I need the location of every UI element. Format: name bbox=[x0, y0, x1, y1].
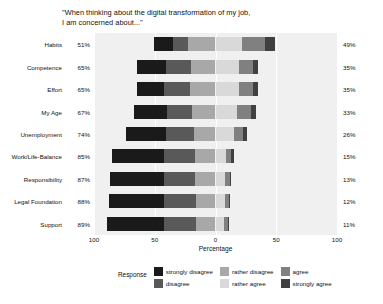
legend-item: strongly agree bbox=[281, 278, 332, 288]
negative-total-label: 74% bbox=[78, 130, 90, 137]
category-label: Work/Life-Balance bbox=[12, 153, 62, 160]
positive-total-label: 26% bbox=[343, 130, 355, 137]
category-label: Legal Foundation bbox=[14, 198, 62, 205]
chart-row: Responsibility87%13% bbox=[94, 168, 337, 190]
positive-total-label: 33% bbox=[343, 108, 355, 115]
x-tick-label: 0 bbox=[214, 236, 217, 243]
category-label: Support bbox=[40, 220, 62, 227]
legend-title: Response bbox=[118, 266, 147, 278]
legend-item: disagree bbox=[154, 278, 213, 288]
bar-segment-rather-agree bbox=[216, 127, 234, 141]
bar-segment-rather-agree bbox=[216, 149, 227, 163]
bar-segment-agree bbox=[237, 105, 250, 119]
x-tick-label: 50 bbox=[151, 236, 158, 243]
bar-segment-disagree bbox=[166, 60, 192, 74]
chart-legend: Response strongly disagreedisagreerather… bbox=[118, 266, 332, 292]
negative-total-label: 85% bbox=[78, 153, 90, 160]
bar-segment-rather-agree bbox=[216, 60, 239, 74]
stacked-bar bbox=[94, 105, 337, 119]
bar-segment-strongly-agree bbox=[229, 194, 230, 208]
bar-segment-agree bbox=[239, 82, 254, 96]
bar-segment-strongly-agree bbox=[251, 105, 256, 119]
legend-label: strongly agree bbox=[293, 280, 332, 287]
x-axis-title: Percentage bbox=[94, 245, 337, 252]
bar-segment-rather-agree bbox=[216, 194, 226, 208]
stacked-bar bbox=[94, 37, 337, 51]
category-label: Habits bbox=[44, 41, 62, 48]
legend-swatch-icon bbox=[220, 279, 229, 288]
bar-segment-strongly-disagree bbox=[137, 60, 166, 74]
legend-column: rather disagreerather agree bbox=[220, 266, 274, 288]
bar-segment-disagree bbox=[164, 82, 190, 96]
bar-segment-rather-disagree bbox=[190, 82, 216, 96]
x-tick-label: 50 bbox=[273, 236, 280, 243]
legend-item: rather disagree bbox=[220, 266, 274, 276]
category-label: My Age bbox=[41, 108, 62, 115]
legend-label: disagree bbox=[166, 280, 190, 287]
positive-total-label: 35% bbox=[343, 86, 355, 93]
category-label: Effort bbox=[47, 86, 62, 93]
legend-columns: strongly disagreedisagreerather disagree… bbox=[154, 266, 332, 288]
bar-segment-strongly-agree bbox=[243, 127, 247, 141]
bar-segment-strongly-agree bbox=[231, 149, 233, 163]
stacked-bar bbox=[94, 194, 337, 208]
chart-row: Work/Life-Balance85%15% bbox=[94, 145, 337, 167]
chart-title: "When thinking about the digital transfo… bbox=[62, 8, 322, 28]
bar-segment-strongly-disagree bbox=[134, 105, 167, 119]
bar-segment-strongly-agree bbox=[228, 217, 229, 231]
negative-total-label: 65% bbox=[78, 63, 90, 70]
x-tick-label: 100 bbox=[89, 236, 99, 243]
bar-segment-rather-disagree bbox=[188, 37, 216, 51]
stacked-bar bbox=[94, 127, 337, 141]
bar-segment-rather-agree bbox=[216, 105, 238, 119]
bar-segment-strongly-disagree bbox=[112, 149, 164, 163]
positive-total-label: 35% bbox=[343, 63, 355, 70]
category-label: Competence bbox=[27, 63, 62, 70]
gridline-pos100 bbox=[337, 33, 338, 235]
positive-total-label: 12% bbox=[343, 198, 355, 205]
negative-total-label: 88% bbox=[78, 198, 90, 205]
bar-segment-disagree bbox=[164, 172, 194, 186]
bar-segment-strongly-disagree bbox=[137, 82, 165, 96]
positive-total-label: 49% bbox=[343, 41, 355, 48]
bar-segment-rather-disagree bbox=[195, 149, 216, 163]
chart-row: Effort65%35% bbox=[94, 78, 337, 100]
bar-segment-rather-disagree bbox=[191, 60, 215, 74]
chart-row: My Age67%33% bbox=[94, 100, 337, 122]
legend-label: agree bbox=[293, 268, 309, 275]
stacked-bar bbox=[94, 172, 337, 186]
bar-segment-strongly-disagree bbox=[110, 172, 165, 186]
bar-segment-strongly-agree bbox=[253, 82, 258, 96]
bar-segment-disagree bbox=[164, 149, 194, 163]
bar-segment-strongly-agree bbox=[253, 60, 258, 74]
bar-segment-rather-agree bbox=[216, 82, 239, 96]
bar-segment-rather-disagree bbox=[196, 194, 215, 208]
bar-segment-rather-agree bbox=[216, 37, 243, 51]
legend-label: rather agree bbox=[232, 280, 266, 287]
stacked-bar bbox=[94, 60, 337, 74]
category-label: Unemployment bbox=[20, 130, 62, 137]
negative-total-label: 51% bbox=[78, 41, 90, 48]
bar-segment-disagree bbox=[164, 217, 196, 231]
legend-swatch-icon bbox=[281, 267, 290, 276]
legend-column: strongly disagreedisagree bbox=[154, 266, 213, 288]
positive-total-label: 15% bbox=[343, 153, 355, 160]
legend-label: strongly disagree bbox=[166, 268, 213, 275]
bar-segment-strongly-agree bbox=[265, 37, 275, 51]
legend-item: rather agree bbox=[220, 278, 274, 288]
bar-segment-agree bbox=[239, 60, 254, 74]
negative-total-label: 65% bbox=[78, 86, 90, 93]
legend-column: agreestrongly agree bbox=[281, 266, 332, 288]
bar-segment-disagree bbox=[167, 105, 193, 119]
stacked-bar bbox=[94, 217, 337, 231]
chart-row: Support89%11% bbox=[94, 213, 337, 235]
plot-area: Habits51%49%Competence65%35%Effort65%35%… bbox=[94, 33, 337, 235]
bar-segment-strongly-agree bbox=[230, 172, 231, 186]
bar-segment-disagree bbox=[164, 194, 196, 208]
legend-swatch-icon bbox=[154, 279, 163, 288]
chart-row: Legal Foundation88%12% bbox=[94, 190, 337, 212]
bar-segment-rather-disagree bbox=[192, 105, 215, 119]
negative-total-label: 89% bbox=[78, 220, 90, 227]
bar-segment-disagree bbox=[166, 127, 194, 141]
x-tick-label: 100 bbox=[332, 236, 342, 243]
